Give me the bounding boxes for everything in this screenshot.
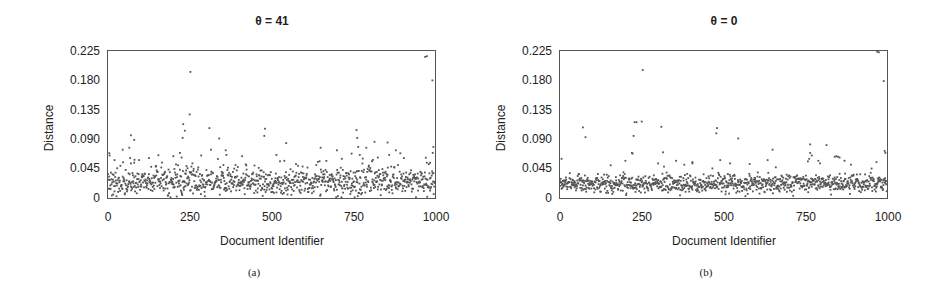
x-tick: 500	[704, 211, 744, 223]
scatter-points	[0, 0, 467, 296]
x-tick: 0	[88, 211, 128, 223]
x-tick: 750	[786, 211, 826, 223]
x-axis-label: Document Identifier	[172, 234, 372, 248]
x-tick: 1000	[868, 211, 908, 223]
x-tick: 500	[252, 211, 292, 223]
chart-panel-a: θ = 41 Distance 0.225 0.180 0.135 0.090 …	[0, 0, 467, 296]
scatter-points	[467, 0, 934, 296]
x-tick: 250	[170, 211, 210, 223]
x-axis-label: Document Identifier	[624, 234, 824, 248]
x-tick: 250	[622, 211, 662, 223]
figure-caption: (a)	[234, 266, 274, 278]
figure-caption: (b)	[686, 266, 726, 278]
x-tick: 1000	[416, 211, 456, 223]
chart-panel-b: θ = 0 Distance 0.225 0.180 0.135 0.090 0…	[467, 0, 934, 296]
x-tick: 0	[540, 211, 580, 223]
x-tick: 750	[334, 211, 374, 223]
